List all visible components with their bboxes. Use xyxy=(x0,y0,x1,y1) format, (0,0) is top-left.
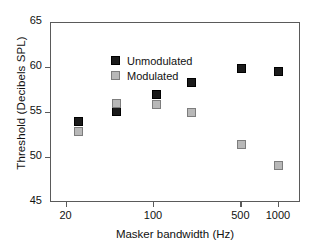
x-tick-label: 100 xyxy=(128,209,178,221)
x-tick-mark xyxy=(153,202,154,207)
y-axis-label: Threshold (Decibels SPL) xyxy=(15,3,27,203)
data-point-modulated xyxy=(112,99,121,108)
y-axis-tick: 45 xyxy=(0,202,50,203)
y-tick-label: 45 xyxy=(30,194,42,206)
chart-legend: UnmodulatedModulated xyxy=(111,53,192,83)
data-point-modulated xyxy=(152,100,161,109)
legend-label: Modulated xyxy=(127,70,178,82)
data-point-modulated xyxy=(274,161,283,170)
y-axis-tick: 60 xyxy=(0,67,50,68)
y-tick-label: 50 xyxy=(30,149,42,161)
x-tick-mark xyxy=(240,202,241,207)
chart-figure: Threshold (Decibels SPL) 4550556065 2010… xyxy=(0,0,317,252)
x-tick-label: 20 xyxy=(41,209,91,221)
legend-label: Unmodulated xyxy=(127,55,192,67)
legend-item-modulated: Modulated xyxy=(111,68,192,83)
y-tick-label: 65 xyxy=(30,14,42,26)
x-tick-mark xyxy=(278,202,279,207)
legend-swatch-unmodulated xyxy=(111,56,120,65)
y-axis-tick: 65 xyxy=(0,22,50,23)
data-point-unmodulated xyxy=(274,67,283,76)
y-tick-label: 55 xyxy=(30,104,42,116)
data-point-modulated xyxy=(237,140,246,149)
plot-area: UnmodulatedModulated xyxy=(50,22,300,202)
y-axis-tick: 50 xyxy=(0,157,50,158)
data-point-unmodulated xyxy=(237,64,246,73)
data-point-unmodulated xyxy=(74,117,83,126)
data-point-unmodulated xyxy=(152,90,161,99)
x-tick-mark xyxy=(66,202,67,207)
legend-item-unmodulated: Unmodulated xyxy=(111,53,192,68)
x-axis-label: Masker bandwidth (Hz) xyxy=(50,228,300,240)
data-point-modulated xyxy=(74,127,83,136)
x-tick-label: 1000 xyxy=(253,209,303,221)
legend-swatch-modulated xyxy=(111,71,120,80)
data-point-unmodulated xyxy=(112,107,121,116)
data-point-modulated xyxy=(187,108,196,117)
y-tick-label: 60 xyxy=(30,59,42,71)
y-axis-tick: 55 xyxy=(0,112,50,113)
